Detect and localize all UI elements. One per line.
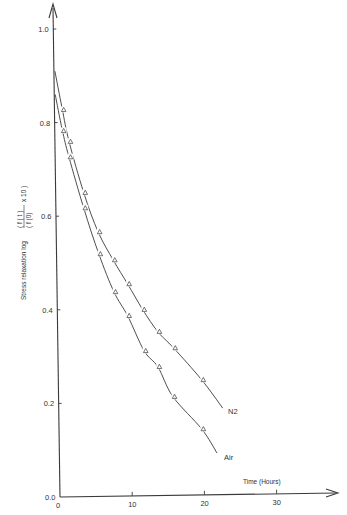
y-axis-title-numerator: ( f ( t )	[16, 211, 24, 228]
x-tick-label: 20	[200, 499, 208, 508]
x-tick-label: 30	[273, 498, 281, 507]
y-axis-title-denominator: ( f (0)	[25, 212, 33, 228]
y-tick-label: 1.0	[38, 25, 48, 34]
x-tick-label: 0	[56, 501, 60, 510]
x-axis-line	[60, 493, 336, 497]
chart: 01020300.00.20.40.60.81.0 Time (Hours) S…	[0, 0, 347, 515]
series-group	[55, 71, 223, 453]
y-tick-label: 0.6	[41, 212, 51, 221]
ticks: 01020300.00.20.40.60.81.0	[38, 25, 281, 510]
series-label-n2: N2	[228, 407, 238, 416]
series-label-air: Air	[224, 453, 234, 462]
x-tick-label: 10	[128, 500, 136, 509]
y-axis-title-prefix: Stress relaxation log	[20, 241, 28, 300]
y-tick-label: 0.4	[42, 306, 52, 315]
y-axis-title-suffix: x 10 )	[20, 186, 28, 202]
x-axis-title: Time (Hours)	[243, 478, 281, 486]
y-tick-label: 0.2	[44, 399, 54, 408]
y-axis-title: Stress relaxation log ( f ( t ) ( f (0) …	[16, 186, 33, 300]
series-line-n2	[55, 71, 223, 408]
series-line-air	[55, 95, 217, 454]
y-tick-label: 0.8	[40, 119, 50, 128]
axes	[49, 4, 338, 497]
y-tick-label: 0.0	[45, 493, 55, 502]
